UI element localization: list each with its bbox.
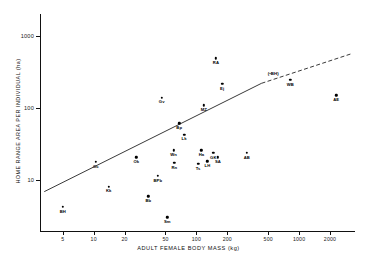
x-tick bbox=[330, 231, 331, 235]
data-point-label: WB bbox=[287, 82, 294, 87]
y-tick bbox=[36, 108, 41, 109]
data-point-label: SA bbox=[215, 159, 221, 164]
data-point-label: BH bbox=[60, 209, 66, 214]
x-tick-label: 1000 bbox=[293, 236, 305, 242]
x-tick-label: 100 bbox=[192, 236, 201, 242]
x-axis-line bbox=[40, 231, 355, 232]
y-tick bbox=[36, 180, 41, 181]
x-tick bbox=[63, 231, 64, 235]
x-tick bbox=[268, 231, 269, 235]
y-axis-title: HOME RANGE AREA PER INDIVIDUAL (ha) bbox=[15, 26, 21, 216]
y-tick-label: 10 bbox=[8, 177, 34, 183]
x-tick-label: 200 bbox=[223, 236, 232, 242]
x-tick bbox=[227, 231, 228, 235]
x-tick bbox=[299, 231, 300, 235]
data-point-label: Bb bbox=[145, 198, 151, 203]
data-point-label: Ej bbox=[220, 86, 224, 91]
x-tick bbox=[196, 231, 197, 235]
data-point-label: Gv bbox=[159, 99, 165, 104]
x-tick-label: 2000 bbox=[324, 236, 336, 242]
y-tick-label: 1000 bbox=[8, 33, 34, 39]
x-tick-label: 50 bbox=[162, 236, 168, 242]
data-point-label: AB bbox=[244, 155, 250, 160]
data-point-label: MZ bbox=[201, 107, 207, 112]
data-point-label: Oc bbox=[93, 164, 99, 169]
data-point-label: Ha bbox=[199, 152, 205, 157]
x-tick-label: 10 bbox=[91, 236, 97, 242]
y-axis-line bbox=[40, 14, 41, 231]
y-tick bbox=[36, 36, 41, 37]
data-point-label: Ts bbox=[196, 166, 201, 171]
x-axis-title: ADULT FEMALE BODY MASS (kg) bbox=[0, 245, 377, 251]
data-point-label: Rn bbox=[171, 165, 177, 170]
regression-line bbox=[0, 0, 377, 260]
data-point-label: RA bbox=[213, 60, 219, 65]
chart-annotation: (•BH) bbox=[268, 71, 279, 76]
scatter-chart: 510205010020050010002000 101001000 ADULT… bbox=[0, 0, 377, 260]
y-tick-label: 100 bbox=[8, 105, 34, 111]
x-tick bbox=[165, 231, 166, 235]
x-tick bbox=[94, 231, 95, 235]
x-tick bbox=[125, 231, 126, 235]
data-point-label: Sm bbox=[164, 219, 171, 224]
data-point-label: Kk bbox=[106, 188, 112, 193]
data-point-label: BPb bbox=[153, 178, 162, 183]
data-point-label: Wn bbox=[170, 152, 177, 157]
data-point-label: AE bbox=[333, 97, 339, 102]
data-point-label: Ok bbox=[133, 159, 139, 164]
data-point-label: Lk bbox=[182, 136, 187, 141]
x-tick-label: 20 bbox=[122, 236, 128, 242]
x-tick-label: 5 bbox=[61, 236, 64, 242]
data-point-label: Bp bbox=[176, 125, 182, 130]
data-point-label: LH bbox=[205, 163, 211, 168]
x-tick-label: 500 bbox=[264, 236, 273, 242]
